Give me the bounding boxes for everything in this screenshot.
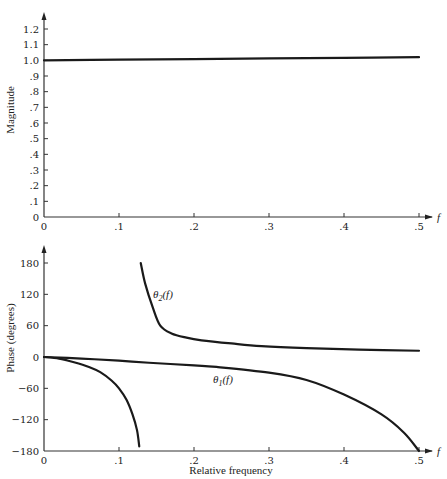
- mag-x-arrow-icon: [425, 215, 433, 220]
- phase-x-tick-label: 0: [41, 455, 47, 466]
- phase-x-tick-label: .5: [414, 455, 424, 466]
- magnitude-axis-title: Magnitude: [4, 86, 16, 134]
- mag-y-tick-label: .6: [29, 118, 39, 129]
- mag-y-tick-label: .2: [29, 180, 39, 191]
- phase-y-tick-label: −60: [18, 383, 39, 394]
- mag-y-tick-label: 0: [33, 212, 39, 223]
- phase-y-arrow-icon: [42, 245, 47, 253]
- mag-x-tick-label: .4: [339, 221, 349, 232]
- phase-y-tick-label: 180: [20, 258, 39, 269]
- mag-y-tick-label: 1.2: [23, 24, 39, 35]
- mag-y-tick-label: 1.1: [23, 39, 39, 50]
- phase-y-tick-label: 0: [33, 352, 39, 363]
- phase-y-tick-label: −180: [12, 446, 39, 457]
- phase-y-tick-label: 120: [20, 289, 39, 300]
- mag-x-tick-label: .5: [414, 221, 424, 232]
- phase-y-tick-label: 60: [26, 320, 39, 331]
- theta2-label: θ2(f): [153, 288, 173, 303]
- mag-x-tick-label: .1: [114, 221, 124, 232]
- mag-y-tick-label: .9: [29, 71, 39, 82]
- mag-y-tick-label: 1.0: [23, 55, 39, 66]
- mag-f-symbol: f: [437, 211, 442, 223]
- mag-y-arrow-icon: [42, 12, 47, 20]
- phase-y-tick-label: −120: [12, 414, 39, 425]
- mag-y-tick-label: .8: [29, 86, 39, 97]
- phase-x-tick-label: .4: [339, 455, 349, 466]
- mag-x-tick-label: .3: [264, 221, 274, 232]
- phase-panel: 0.1.2.3.4.5−180−120−60060120180: [12, 245, 433, 466]
- phase-x-tick-label: .1: [114, 455, 124, 466]
- phase-f-symbol: f: [437, 445, 442, 457]
- mag-y-tick-label: .7: [29, 102, 39, 113]
- phase-series-1: [141, 263, 419, 351]
- frequency-response-chart: 0.1.2.3.4.50.1.2.3.4.5.6.7.8.91.01.11.2 …: [0, 0, 447, 479]
- mag-x-tick-label: 0: [41, 221, 47, 232]
- phase-axis-title: Phase (degrees): [4, 303, 17, 373]
- mag-series-0: [44, 57, 419, 60]
- magnitude-panel: 0.1.2.3.4.50.1.2.3.4.5.6.7.8.91.01.11.2: [23, 12, 433, 232]
- theta1-label: θ1(f): [213, 373, 233, 388]
- phase-x-arrow-icon: [425, 449, 433, 454]
- phase-series-2: [44, 357, 139, 446]
- mag-y-tick-label: .5: [29, 133, 39, 144]
- x-axis-title: Relative frequency: [189, 464, 273, 476]
- mag-y-tick-label: .1: [29, 196, 39, 207]
- mag-y-tick-label: .3: [29, 165, 39, 176]
- mag-x-tick-label: .2: [189, 221, 199, 232]
- mag-y-tick-label: .4: [29, 149, 39, 160]
